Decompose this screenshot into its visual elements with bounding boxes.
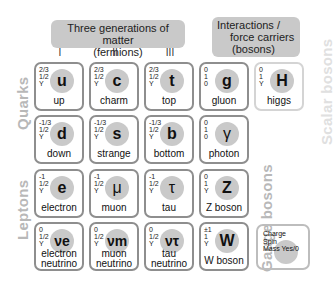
particle-symbol: μ: [91, 175, 143, 201]
particle-name: strange: [89, 149, 139, 159]
particle-symbol: d: [36, 121, 88, 147]
particle-card-tau-neutrino[interactable]: 01/2Y ντ tauneutrino: [144, 222, 194, 271]
bosons-header: Interactions / force carriers (bosons): [212, 17, 300, 57]
particle-symbol: W: [201, 228, 253, 254]
particle-name: down: [34, 149, 84, 159]
particle-symbol: H: [256, 68, 308, 94]
scalar-bosons-label: Scalar bosons: [318, 39, 335, 145]
particle-name: tauneutrino: [144, 249, 194, 269]
leptons-label: Leptons: [14, 180, 31, 240]
particle-name: muonneutrino: [89, 249, 139, 269]
bosons-header-line2: force carriers: [212, 31, 300, 43]
fermions-header: Three generations of matter (fermions): [51, 20, 185, 48]
particle-card-charm[interactable]: 2/31/2Y c charm: [89, 62, 139, 111]
particle-card-muon[interactable]: -11/2Y μ muon: [89, 169, 139, 218]
particle-symbol: c: [91, 68, 143, 94]
particle-symbol: b: [146, 121, 198, 147]
legend-card: ChargeSpinMass Yes/0: [256, 224, 310, 270]
particle-card-electron[interactable]: -11/2Y e electron: [34, 169, 84, 218]
particle-card-muon-neutrino[interactable]: 01/2Y νm muonneutrino: [89, 222, 139, 271]
particle-card-bottom[interactable]: -1/31/2Y b bottom: [144, 115, 194, 164]
particle-symbol: τ: [146, 175, 198, 201]
particle-symbol: g: [201, 68, 253, 94]
particle-card-higgs[interactable]: 01Y H higgs: [254, 62, 304, 111]
particle-name: up: [34, 96, 84, 106]
particle-symbol: e: [36, 175, 88, 201]
particle-name: gluon: [199, 96, 249, 106]
particle-card-up[interactable]: 2/31/2Y u up: [34, 62, 84, 111]
generation-3-label: III: [145, 47, 195, 58]
particle-name: tau: [144, 203, 194, 213]
particle-card-tau[interactable]: -11/2Y τ tau: [144, 169, 194, 218]
particle-name: higgs: [254, 96, 304, 106]
quarks-label: Quarks: [14, 77, 31, 131]
bosons-header-line3: (bosons): [212, 43, 300, 55]
particle-card-down[interactable]: -1/31/2Y d down: [34, 115, 84, 164]
particle-symbol: γ: [201, 121, 253, 147]
legend-text: ChargeSpinMass Yes/0: [263, 230, 299, 253]
particle-card-top[interactable]: 2/31/2Y t top: [144, 62, 194, 111]
particle-name: electronneutrino: [34, 249, 84, 269]
particle-name: photon: [199, 149, 249, 159]
particle-name: muon: [89, 203, 139, 213]
particle-card-gluon[interactable]: 010 g gluon: [199, 62, 249, 111]
fermions-header-line1: Three generations of matter: [51, 22, 185, 46]
particle-card-strange[interactable]: -1/31/2Y s strange: [89, 115, 139, 164]
generation-1-label: I: [35, 47, 85, 58]
bosons-header-line1: Interactions /: [212, 19, 300, 31]
particle-card-photon[interactable]: 010 γ photon: [199, 115, 249, 164]
particle-name: electron: [34, 203, 84, 213]
particle-name: bottom: [144, 149, 194, 159]
particle-card-z-boson[interactable]: 01Y Z Z boson: [199, 169, 249, 218]
particle-symbol: u: [36, 68, 88, 94]
particle-card-electron-neutrino[interactable]: 01/2Y νe electronneutrino: [34, 222, 84, 271]
particle-name: Z boson: [199, 203, 249, 213]
particle-symbol: t: [146, 68, 198, 94]
generation-2-label: II: [90, 47, 140, 58]
particle-name: top: [144, 96, 194, 106]
particle-name: charm: [89, 96, 139, 106]
particle-name: W boson: [199, 256, 249, 266]
particle-symbol: s: [91, 121, 143, 147]
particle-symbol: Z: [201, 175, 253, 201]
particle-card-w-boson[interactable]: ±11Y W W boson: [199, 222, 249, 271]
